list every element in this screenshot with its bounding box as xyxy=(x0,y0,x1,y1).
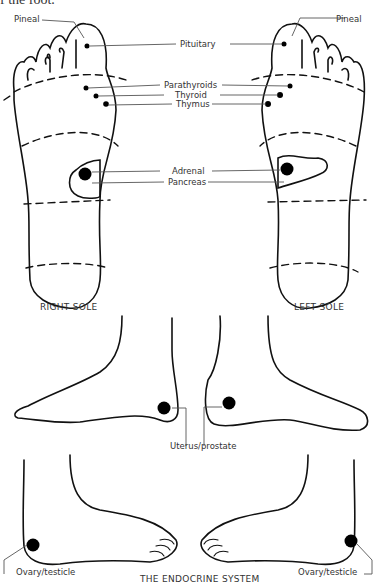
label-ovary-testicle-right: Ovary/testicle xyxy=(16,567,75,577)
label-ovary-testicle-left: Ovary/testicle xyxy=(298,567,357,577)
right-ovary-dot xyxy=(27,539,40,552)
label-uterus-prostate: Uterus/prostate xyxy=(170,441,236,451)
left-pituitary-dot xyxy=(282,42,287,47)
right-thyroid-dot xyxy=(94,94,99,99)
label-pineal-right-sole: Pineal xyxy=(14,14,40,24)
label-pineal-left-sole: Pineal xyxy=(336,14,362,24)
label-pancreas: Pancreas xyxy=(168,177,206,187)
right-side-foot-outline xyxy=(15,316,178,423)
left-side-foot-outline xyxy=(206,316,368,430)
label-thymus: Thymus xyxy=(176,99,210,109)
right-pituitary-dot xyxy=(85,44,90,49)
left-uterus-dot xyxy=(223,397,236,410)
right-parathyroids-dot xyxy=(84,86,89,91)
right-adrenal-dot xyxy=(79,168,92,181)
reflex-points xyxy=(27,42,358,552)
label-adrenal: Adrenal xyxy=(172,166,205,176)
left-ovary-dot xyxy=(345,535,358,548)
left-lower-foot-outline xyxy=(201,455,355,564)
right-thymus-dot xyxy=(103,101,109,107)
left-parathyroids-dot xyxy=(288,84,293,89)
caption-left-sole: LEFT SOLE xyxy=(294,302,344,312)
label-pituitary: Pituitary xyxy=(180,39,215,49)
label-parathyroids: Parathyroids xyxy=(164,80,217,90)
right-lower-foot-outline xyxy=(23,455,177,564)
right-uterus-dot xyxy=(158,402,171,415)
figure-title: THE ENDOCRINE SYSTEM xyxy=(140,574,260,584)
caption-right-sole: RIGHT SOLE xyxy=(40,302,98,312)
left-adrenal-dot xyxy=(281,163,294,176)
